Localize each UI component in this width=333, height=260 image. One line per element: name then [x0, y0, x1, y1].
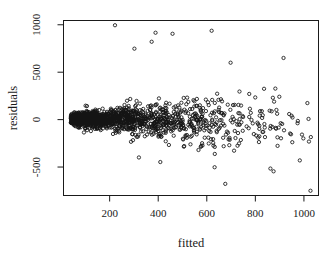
x-axis-ticks: 2004006008001000 [101, 196, 315, 220]
data-point [307, 117, 310, 120]
data-point [213, 166, 216, 169]
data-point [236, 131, 239, 134]
data-point [276, 136, 279, 139]
data-point [138, 102, 141, 105]
y-tick-label: -500 [30, 156, 42, 177]
data-point [263, 122, 266, 125]
data-point [145, 127, 148, 130]
data-point [182, 96, 185, 99]
data-point [188, 115, 191, 118]
data-point [309, 135, 312, 138]
data-point [262, 87, 265, 90]
data-point [298, 159, 301, 162]
x-tick-label: 800 [247, 207, 264, 219]
data-point [288, 132, 291, 135]
data-point [248, 92, 251, 95]
data-point [125, 99, 128, 102]
data-point [164, 140, 167, 143]
data-point [168, 102, 171, 105]
x-axis-label: fitted [178, 236, 205, 250]
x-tick-label: 600 [199, 207, 216, 219]
data-point [89, 129, 92, 132]
data-point [137, 156, 140, 159]
data-point [129, 97, 132, 100]
data-point [214, 116, 217, 119]
data-point [233, 129, 236, 132]
data-point [134, 105, 137, 108]
data-point [101, 107, 104, 110]
data-point [229, 61, 232, 64]
data-point [204, 109, 207, 112]
data-point [191, 107, 194, 110]
x-tick-label: 1000 [293, 207, 316, 219]
data-point [272, 100, 275, 103]
data-point [250, 118, 253, 121]
data-point [226, 103, 229, 106]
data-point [263, 135, 266, 138]
data-point [211, 98, 214, 101]
y-axis-ticks: -50005001000 [30, 13, 64, 177]
data-point [275, 108, 278, 111]
y-tick-label: 1000 [30, 13, 42, 36]
x-tick-label: 400 [150, 207, 167, 219]
data-point [239, 138, 242, 141]
data-point [274, 87, 277, 90]
data-point [248, 107, 251, 110]
data-point [272, 170, 275, 173]
residuals-vs-fitted-plot: 2004006008001000 -50005001000 fitted res… [0, 0, 333, 260]
data-point [213, 101, 216, 104]
data-point [203, 136, 206, 139]
data-point [249, 111, 252, 114]
data-point [180, 101, 183, 104]
data-point [251, 122, 254, 125]
data-point [222, 145, 225, 148]
data-point [254, 96, 257, 99]
data-point [248, 115, 251, 118]
data-point [154, 31, 157, 34]
scatter-points [69, 24, 312, 193]
data-point [302, 137, 305, 140]
data-point [172, 134, 175, 137]
data-point [197, 148, 200, 151]
y-axis-label: residuals [6, 86, 20, 131]
data-point [98, 108, 101, 111]
data-point [282, 56, 285, 59]
data-point [235, 120, 238, 123]
data-point [238, 90, 241, 93]
data-point [222, 136, 225, 139]
data-point [232, 149, 235, 152]
data-point [150, 40, 153, 43]
data-point [296, 119, 299, 122]
data-point [215, 92, 218, 95]
data-point [291, 141, 294, 144]
data-point [207, 142, 210, 145]
data-point [309, 189, 312, 192]
data-point [241, 129, 244, 132]
data-point [123, 103, 126, 106]
data-point [167, 143, 170, 146]
data-point [113, 24, 116, 27]
data-point [213, 152, 216, 155]
data-point [179, 110, 182, 113]
y-tick-label: 500 [30, 63, 42, 80]
data-point [279, 137, 282, 140]
data-point [207, 136, 210, 139]
data-point [276, 144, 279, 147]
data-point [229, 108, 232, 111]
data-point [257, 140, 260, 143]
x-tick-label: 200 [101, 207, 118, 219]
data-point [171, 32, 174, 35]
data-point [271, 96, 274, 99]
data-point [82, 131, 85, 134]
data-point [135, 99, 138, 102]
data-point [269, 167, 272, 170]
data-point [157, 97, 160, 100]
y-tick-label: 0 [30, 116, 42, 122]
data-point [238, 117, 241, 120]
data-point [306, 101, 309, 104]
data-point [133, 47, 136, 50]
data-point [278, 95, 281, 98]
data-point [189, 143, 192, 146]
data-point [224, 182, 227, 185]
data-point [275, 112, 278, 115]
